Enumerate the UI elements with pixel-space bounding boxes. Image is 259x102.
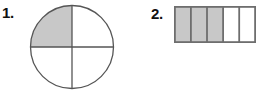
circle-fraction-svg [29, 4, 115, 90]
circle-fraction-model [29, 4, 115, 90]
bar-shaded-region [175, 7, 223, 42]
worksheet-page: 1. 2. [0, 0, 259, 102]
item-number-label-1: 1. [2, 5, 14, 20]
bar-fraction-model [174, 6, 256, 43]
bar-fraction-svg [174, 6, 256, 43]
item-number-label-2: 2. [151, 6, 163, 21]
